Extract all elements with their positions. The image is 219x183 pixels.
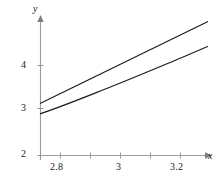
chart-figure: y x 4 3 2 2.8 3 3.2 [0, 0, 219, 183]
plot-canvas [0, 0, 219, 183]
y-tick-label-2: 2 [21, 148, 26, 159]
x-tick-label-3-2: 3.2 [170, 161, 183, 172]
x-tick-label-2-8: 2.8 [50, 161, 63, 172]
y-tick-label-3: 3 [21, 102, 26, 113]
y-axis-label: y [33, 3, 37, 14]
y-tick-label-4: 4 [21, 59, 26, 70]
x-axis-label: x [208, 150, 212, 161]
tangent-line [40, 22, 208, 104]
x-tick-label-3: 3 [116, 161, 121, 172]
function-curve [40, 46, 208, 114]
y-axis-arrow-icon [37, 15, 43, 22]
